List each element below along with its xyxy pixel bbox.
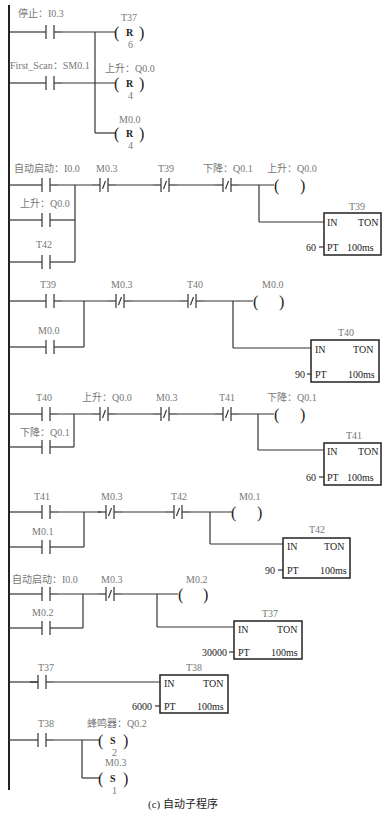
svg-text:): )	[300, 177, 305, 195]
svg-text:PT: PT	[238, 647, 250, 658]
timer-name: T39	[349, 201, 365, 212]
svg-text:90: 90	[265, 565, 275, 576]
contact-label: 停止：I0.3	[18, 7, 64, 19]
network-2: 自动启动：I0.0 上升：Q0.0 T42 M0.3 T39 下降：Q0.1 上…	[9, 162, 381, 269]
no-contact	[38, 76, 62, 90]
contact-label: T39	[40, 279, 56, 290]
set-coil: S	[110, 735, 116, 746]
svg-text:6000: 6000	[132, 701, 152, 712]
coil-label: 下降：Q0.1	[267, 391, 317, 403]
network-5: T41 M0.1 M0.3 T42 M0.1 () T42 IN TON PT …	[9, 491, 350, 578]
coil-count: 1	[112, 785, 117, 796]
contact-label: M0.1	[32, 526, 53, 537]
svg-text:IN: IN	[238, 624, 249, 635]
svg-text:100ms: 100ms	[347, 242, 374, 253]
svg-text:90: 90	[295, 369, 305, 380]
ladder-diagram: 停止：I0.3 First_Scan：SM0.1 T37 (R) 6 上升：Q0…	[0, 0, 389, 814]
reset-coil: R	[126, 78, 134, 89]
network-6: 自动启动：I0.0 M0.2 M0.3 M0.2 () T37 IN TON P…	[9, 573, 302, 659]
contact-label: 上升：Q0.0	[82, 392, 132, 403]
figure-caption: (c) 自动子程序	[148, 797, 218, 811]
contact-label: 下降：Q0.1	[20, 426, 70, 438]
contact-label: 下降：Q0.1	[203, 162, 253, 174]
svg-text:TON: TON	[277, 624, 297, 635]
reset-coil: R	[126, 27, 134, 38]
coil-label: 蜂鸣器：Q0.2	[87, 717, 147, 729]
network-8: T38 蜂鸣器：Q0.2 (S) 2 M0.3 (S) 1	[9, 717, 147, 796]
contact-label: M0.3	[111, 279, 132, 290]
svg-text:): )	[257, 504, 262, 522]
svg-text:PT: PT	[327, 472, 339, 483]
svg-text:IN: IN	[287, 541, 298, 552]
timer-name: T38	[186, 662, 202, 673]
svg-text:): )	[139, 75, 144, 93]
contact-label: T39	[158, 163, 174, 174]
svg-text:TON: TON	[358, 217, 378, 228]
coil-label: M0.0	[119, 114, 140, 125]
timer-name: T41	[346, 430, 362, 441]
network-1: 停止：I0.3 First_Scan：SM0.1 T37 (R) 6 上升：Q0…	[9, 7, 155, 151]
svg-text:): )	[123, 732, 128, 750]
svg-text:60: 60	[306, 242, 316, 253]
coil-label: M0.2	[186, 574, 207, 585]
set-coil: S	[110, 773, 116, 784]
svg-text:30000: 30000	[202, 647, 227, 658]
network-7: T37 T38 IN TON PT 100ms 6000	[9, 662, 228, 713]
svg-text:(: (	[98, 732, 103, 750]
coil-label: 上升：Q0.0	[105, 63, 155, 74]
svg-text:): )	[123, 770, 128, 788]
coil-label: M0.1	[239, 491, 260, 502]
contact-label: T40	[36, 392, 52, 403]
svg-text:(: (	[231, 504, 236, 522]
svg-text:): )	[279, 293, 284, 311]
contact-label: T40	[187, 279, 203, 290]
svg-text:100ms: 100ms	[347, 472, 374, 483]
contact-label: T41	[219, 392, 235, 403]
svg-text:TON: TON	[353, 344, 373, 355]
contact-label: M0.0	[38, 325, 59, 336]
svg-text:): )	[139, 24, 144, 42]
contact-label: First_Scan：SM0.1	[10, 60, 90, 71]
svg-text:): )	[203, 586, 208, 604]
svg-text:): )	[139, 125, 144, 143]
contact-label: 自动启动：I0.0	[12, 573, 78, 585]
contact-label: M0.3	[96, 163, 117, 174]
network-4: T40 下降：Q0.1 上升：Q0.0 M0.3 T41 下降：Q0.1 () …	[9, 391, 381, 485]
svg-text:TON: TON	[324, 541, 344, 552]
svg-text:60: 60	[306, 472, 316, 483]
svg-text:(: (	[114, 24, 119, 42]
contact-label: T42	[36, 239, 52, 250]
svg-text:(: (	[114, 125, 119, 143]
contact-label: 自动启动：I0.0	[14, 162, 80, 174]
no-contact	[38, 25, 62, 39]
svg-text:PT: PT	[287, 565, 299, 576]
contact-label: 上升：Q0.0	[20, 198, 70, 209]
contact-label: M0.3	[101, 574, 122, 585]
coil-count: 4	[128, 90, 133, 101]
svg-text:(: (	[178, 586, 183, 604]
svg-text:IN: IN	[164, 678, 175, 689]
coil-label: M0.3	[105, 757, 126, 768]
coil-count: 6	[128, 39, 133, 50]
svg-text:IN: IN	[327, 217, 338, 228]
svg-text:TON: TON	[358, 446, 378, 457]
contact-label: M0.2	[32, 607, 53, 618]
reset-coil: R	[126, 128, 134, 139]
svg-text:100ms: 100ms	[348, 369, 375, 380]
svg-text:100ms: 100ms	[197, 701, 224, 712]
svg-text:PT: PT	[164, 701, 176, 712]
network-3: T39 M0.0 M0.3 T40 M0.0 () T40 IN TON PT …	[9, 279, 379, 382]
svg-text:PT: PT	[327, 242, 339, 253]
svg-text:IN: IN	[327, 446, 338, 457]
svg-text:(: (	[274, 177, 279, 195]
timer-name: T37	[262, 608, 278, 619]
coil-count: 4	[128, 140, 133, 151]
svg-text:100ms: 100ms	[320, 565, 347, 576]
contact-label: M0.3	[101, 491, 122, 502]
coil-label: T37	[121, 12, 137, 23]
svg-text:IN: IN	[315, 344, 326, 355]
contact-label: T42	[171, 491, 187, 502]
svg-text:(: (	[253, 293, 258, 311]
svg-text:PT: PT	[315, 369, 327, 380]
contact-label: T41	[34, 491, 50, 502]
